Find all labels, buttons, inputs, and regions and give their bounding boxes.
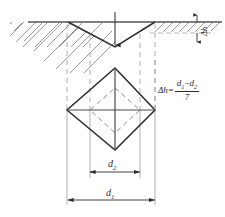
delta-h-top-label: Δh — [200, 27, 209, 36]
outer-diamond-d1 — [67, 68, 155, 150]
d1-subscript: 1 — [111, 193, 114, 200]
formula-denominator: 7 — [185, 92, 190, 102]
vickers-indentation-figure: Δh Δh= d1−d2 7 d2 d1 — [0, 0, 225, 217]
formula-numerator: d1−d2 — [175, 79, 199, 91]
v-groove-profile — [68, 22, 155, 47]
material-hatching — [4, 20, 220, 73]
d2-subscript: 2 — [113, 164, 116, 171]
formula-fraction: d1−d2 7 — [175, 79, 199, 102]
d2-dimension-label: d2 — [108, 159, 116, 172]
figure-drawing — [0, 0, 225, 217]
delta-h-formula: Δh= d1−d2 7 — [158, 79, 199, 102]
numerator-d2-subscript: 2 — [194, 84, 197, 90]
formula-left-hand-side: Δh= — [158, 86, 174, 95]
d1-dimension-label: d1 — [106, 188, 114, 201]
diamond-center-axes — [67, 68, 155, 150]
